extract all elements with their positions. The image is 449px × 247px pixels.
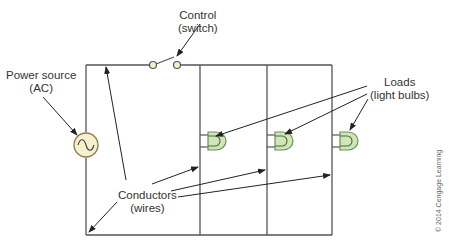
loads-label: Loads (light bulbs) <box>370 76 429 102</box>
arrow-conductor-bottom <box>89 202 117 232</box>
control-label-line1: Control <box>178 9 218 22</box>
arrow-conductor-branch1 <box>152 167 198 184</box>
conductors-label-line1: Conductors <box>118 189 177 202</box>
arrow-power-source <box>43 97 77 135</box>
arrow-conductor-branch3 <box>178 175 330 197</box>
copyright-notice: © 2014 Cengage Learning <box>435 150 442 232</box>
power-source-label: Power source (AC) <box>6 69 76 95</box>
light-bulb-icon <box>200 132 226 150</box>
light-bulb-icon <box>267 132 293 150</box>
light-bulb-icon <box>332 132 358 150</box>
loads-label-line1: Loads <box>370 76 429 89</box>
arrow-load-1 <box>216 86 367 136</box>
leader-arrows <box>43 24 368 232</box>
control-label: Control (switch) <box>178 9 218 35</box>
switch-icon <box>150 57 181 69</box>
conductors-label-line2: (wires) <box>118 202 177 215</box>
power-source-label-line2: (AC) <box>6 82 76 95</box>
arrow-conductor-branch2 <box>171 170 265 191</box>
arrow-load-3 <box>350 99 368 130</box>
ac-source-icon <box>74 133 98 157</box>
control-label-line2: (switch) <box>178 22 218 35</box>
loads-label-line2: (light bulbs) <box>370 89 429 102</box>
power-source-label-line1: Power source <box>6 69 76 82</box>
arrow-conductor-top <box>106 67 126 180</box>
conductors-label: Conductors (wires) <box>118 189 177 215</box>
circuit-diagram <box>0 0 449 247</box>
